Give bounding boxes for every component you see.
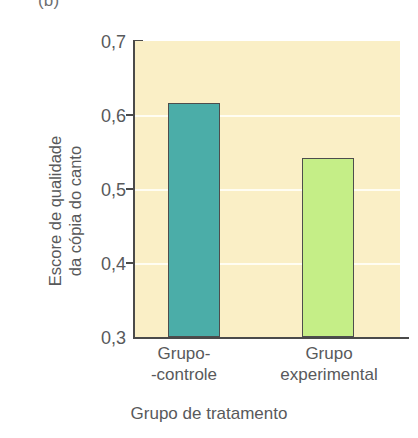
panel-letter: (b) <box>38 0 59 11</box>
bar-grupo-controle <box>168 103 220 337</box>
x-axis-title: Grupo de tratamento <box>0 404 418 424</box>
x-axis-line <box>133 337 409 339</box>
y-tick-label-3: 0,4 <box>74 255 126 273</box>
bar-grupo-experimental <box>302 158 354 337</box>
x-tick-label-grupo-controle-line-2: -controle <box>116 365 252 386</box>
x-tick-label-grupo-controle-line-1: Grupo- <box>116 344 252 365</box>
x-tick-label-grupo-experimental: Grupo experimental <box>253 344 405 385</box>
x-tick-label-grupo-controle: Grupo- -controle <box>116 344 252 385</box>
y-axis-title-line-1: Escore de qualidade <box>46 136 66 286</box>
y-tick-label-2: 0,5 <box>74 181 126 199</box>
plot-area <box>133 41 400 337</box>
x-tick-label-grupo-experimental-line-1: Grupo <box>253 344 405 365</box>
x-tick-label-grupo-experimental-line-2: experimental <box>253 365 405 386</box>
figure-panel: (b) Escore de qualidade da cópia do cant… <box>0 0 418 438</box>
y-tick-label-0: 0,7 <box>74 33 126 51</box>
y-tick-label-1: 0,6 <box>74 107 126 125</box>
